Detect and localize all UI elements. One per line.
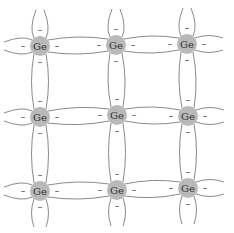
ge-atom: Ge bbox=[177, 34, 197, 54]
bond-line bbox=[32, 10, 36, 38]
bond-line bbox=[48, 51, 108, 54]
electron-symbol: – bbox=[97, 40, 102, 50]
bond-line bbox=[196, 194, 224, 197]
electron-symbol: – bbox=[38, 128, 43, 138]
atom-label: Ge bbox=[180, 39, 194, 50]
electron-symbol: – bbox=[38, 57, 43, 67]
electron-symbol: – bbox=[38, 25, 43, 35]
atom-label: Ge bbox=[110, 185, 124, 196]
bond-line bbox=[48, 196, 109, 199]
ge-atom: Ge bbox=[178, 178, 198, 198]
electron-symbol: – bbox=[38, 96, 43, 106]
bond-line bbox=[125, 121, 180, 124]
electron-symbol: – bbox=[169, 111, 174, 121]
electron-symbol: – bbox=[21, 41, 26, 51]
electron-symbol: – bbox=[186, 95, 191, 105]
electron-symbol: – bbox=[185, 23, 190, 33]
electron-symbol: – bbox=[21, 112, 26, 122]
electron-symbol: – bbox=[115, 94, 120, 104]
ge-atom: Ge bbox=[107, 105, 127, 125]
bond-line bbox=[196, 122, 224, 125]
electron-symbol: – bbox=[186, 167, 191, 177]
bond-line bbox=[4, 109, 32, 113]
bond-line bbox=[4, 195, 32, 199]
bond-line bbox=[32, 54, 35, 109]
electron-symbol: – bbox=[38, 202, 43, 212]
ge-atom: Ge bbox=[107, 180, 127, 200]
bond-line bbox=[196, 180, 224, 183]
ge-atom: Ge bbox=[30, 181, 50, 201]
bond-line bbox=[123, 198, 126, 226]
bond-line bbox=[124, 50, 179, 53]
bond-line bbox=[46, 199, 49, 227]
germanium-crystal-lattice: –––––––––––––––––––––––––––––––––––– GeG… bbox=[0, 0, 234, 233]
ge-atom: Ge bbox=[30, 107, 50, 127]
electron-symbol: – bbox=[55, 41, 60, 51]
bond-line bbox=[193, 52, 196, 108]
electron-symbol: – bbox=[132, 185, 137, 195]
electron-symbol: – bbox=[203, 111, 208, 121]
bond-line bbox=[32, 125, 35, 183]
electron-symbol: – bbox=[168, 39, 173, 49]
electron-symbol: – bbox=[38, 170, 43, 180]
bond-line bbox=[108, 9, 112, 37]
bond-line bbox=[4, 38, 32, 42]
bond-line bbox=[194, 124, 197, 180]
electron-symbol: – bbox=[115, 201, 120, 211]
bond-line bbox=[191, 8, 195, 36]
bond-line bbox=[195, 50, 223, 53]
bond-line bbox=[180, 196, 183, 224]
electron-symbol: – bbox=[115, 169, 120, 179]
bond-line bbox=[196, 108, 224, 111]
bond-line bbox=[46, 125, 49, 183]
bond-line bbox=[108, 53, 111, 107]
atom-label: Ge bbox=[33, 112, 47, 123]
ge-atom: Ge bbox=[106, 35, 126, 55]
electron-symbol: – bbox=[186, 199, 191, 209]
bond-line bbox=[120, 9, 124, 37]
electron-symbol: – bbox=[98, 185, 103, 195]
atom-label: Ge bbox=[33, 41, 47, 52]
electron-symbol: – bbox=[132, 110, 137, 120]
ge-atom: Ge bbox=[178, 106, 198, 126]
atom-label: Ge bbox=[33, 186, 47, 197]
bond-line bbox=[122, 53, 125, 107]
electron-symbol: – bbox=[55, 186, 60, 196]
bond-line bbox=[32, 199, 35, 227]
electron-symbol: – bbox=[115, 126, 120, 136]
electron-symbol: – bbox=[202, 39, 207, 49]
electron-symbol: – bbox=[98, 110, 103, 120]
electron-symbol: – bbox=[114, 56, 119, 66]
electron-symbol: – bbox=[186, 127, 191, 137]
bond-line bbox=[179, 52, 182, 108]
atom-label: Ge bbox=[109, 40, 123, 51]
atom-label: Ge bbox=[181, 183, 195, 194]
electron-symbol: – bbox=[169, 183, 174, 193]
bond-line bbox=[4, 50, 32, 54]
electron-symbol: – bbox=[21, 186, 26, 196]
bond-line bbox=[44, 10, 48, 38]
ge-atom: Ge bbox=[30, 36, 50, 56]
bond-line bbox=[179, 8, 183, 36]
bond-line bbox=[4, 183, 32, 187]
bond-line bbox=[109, 198, 112, 226]
electron-symbol: – bbox=[203, 183, 208, 193]
bond-line bbox=[46, 54, 49, 109]
electron-symbol: – bbox=[55, 112, 60, 122]
electron-symbol: – bbox=[185, 55, 190, 65]
bond-line bbox=[194, 196, 197, 224]
atom-label: Ge bbox=[181, 111, 195, 122]
electron-symbol: – bbox=[131, 40, 136, 50]
atom-label: Ge bbox=[110, 110, 124, 121]
bond-line bbox=[109, 123, 112, 182]
bond-line bbox=[180, 124, 183, 180]
electron-symbol: – bbox=[114, 24, 119, 34]
bond-line bbox=[123, 123, 126, 182]
bond-line bbox=[4, 121, 32, 125]
bond-line bbox=[195, 36, 223, 39]
